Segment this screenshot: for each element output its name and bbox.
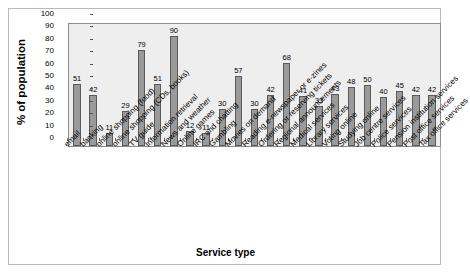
bar-value-label: 51: [147, 75, 169, 83]
x-axis-title: Service type: [0, 247, 451, 258]
bar-value-label: 42: [82, 86, 104, 94]
y-axis-ticks: 1009080706050403020100: [34, 14, 54, 138]
y-axis-tick-label: 90: [45, 22, 54, 30]
y-axis-tick-label: 100: [41, 10, 54, 18]
bar-value-label: 79: [131, 41, 153, 49]
bar-value-label: 50: [356, 76, 378, 84]
bar-value-label: 42: [260, 86, 282, 94]
y-axis-title-text: % of population: [15, 39, 27, 125]
y-axis-tick-mark: [90, 101, 93, 102]
y-axis-tick-mark: [90, 113, 93, 114]
y-axis-tick-label: 80: [45, 35, 54, 43]
bar-value-label: 57: [227, 67, 249, 75]
x-axis-labels: emailbankingonline shopping (food)online…: [0, 141, 451, 251]
y-axis-tick-mark: [90, 14, 93, 15]
bar-value-label: 68: [276, 54, 298, 62]
y-axis-tick-label: 10: [45, 122, 54, 130]
y-axis-tick-label: 20: [45, 109, 54, 117]
y-axis-tick-mark: [90, 76, 93, 77]
y-axis-tick-mark: [90, 39, 93, 40]
y-axis-tick-label: 50: [45, 72, 54, 80]
bar-value-label: 90: [163, 27, 185, 35]
y-axis-tick-mark: [90, 51, 93, 52]
y-axis-tick-label: 60: [45, 60, 54, 68]
y-axis-tick-mark: [90, 26, 93, 27]
bar-value-label: 51: [66, 75, 88, 83]
y-axis-title: % of population: [10, 18, 32, 146]
y-axis-tick-mark: [90, 88, 93, 89]
y-axis-tick-label: 30: [45, 97, 54, 105]
y-axis-tick-mark: [90, 64, 93, 65]
y-axis-tick-label: 70: [45, 47, 54, 55]
y-axis-tick-label: 40: [45, 84, 54, 92]
